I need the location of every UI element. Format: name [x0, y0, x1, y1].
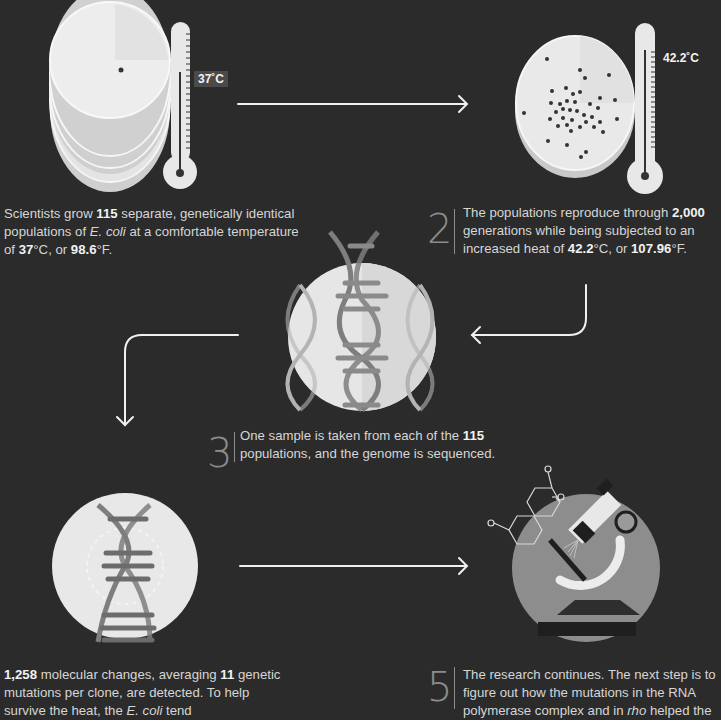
step-5-number: 5 — [427, 667, 452, 707]
arrow-right-icon — [240, 558, 467, 574]
step-1-caption: Scientists grow 115 separate, geneticall… — [4, 205, 304, 259]
petri-dish-icon — [515, 36, 635, 178]
step-3-number: 3 — [207, 433, 232, 473]
arrow-curve-left-icon — [472, 285, 586, 343]
temperature-label-37: 37˚C — [194, 71, 228, 87]
step-divider — [234, 432, 235, 462]
single-dna-circle-icon — [52, 493, 198, 642]
stacked-petri-dishes-icon — [50, 0, 170, 192]
step-3-caption: One sample is taken from each of the 115… — [240, 427, 500, 463]
step-divider — [454, 209, 455, 254]
step-divider — [454, 667, 455, 709]
temperature-label-42: 42.2˚C — [659, 50, 703, 66]
arrow-right-icon — [238, 96, 467, 112]
arrow-curve-down-icon — [117, 335, 238, 425]
step-2-number: 2 — [427, 209, 452, 249]
dna-circle-icon — [288, 232, 437, 411]
step-4-caption: 1,258 molecular changes, averaging 11 ge… — [4, 666, 294, 720]
step-2-caption: The populations reproduce through 2,000 … — [463, 204, 721, 258]
microscope-icon — [512, 479, 660, 642]
step-5-caption: The research continues. The next step is… — [463, 666, 721, 720]
